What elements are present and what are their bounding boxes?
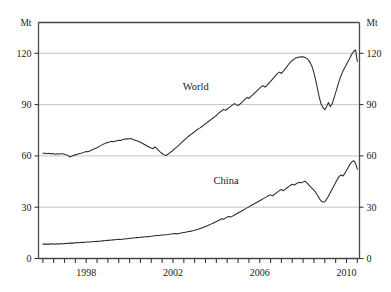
x-axis-label-2002: 2002 [163, 267, 183, 278]
series-line-china [43, 161, 357, 244]
y-axis-unit-label-right: Mt [367, 18, 378, 28]
chart-figure: 00303060609090120120MtMt1998200220062010… [0, 0, 391, 292]
y-axis-label-left-30: 30 [22, 202, 32, 213]
series-lines [43, 50, 357, 244]
y-axis-label-left-120: 120 [17, 48, 32, 59]
x-axis-label-2006: 2006 [250, 267, 270, 278]
y-axis-label-right-30: 30 [367, 202, 377, 213]
series-label-world: World [183, 81, 210, 92]
y-axis-label-right-0: 0 [367, 253, 372, 264]
y-axis-label-left-60: 60 [22, 150, 32, 161]
y-axis-label-left-0: 0 [27, 253, 32, 264]
x-axis-label-1998: 1998 [76, 267, 96, 278]
x-axis-ticks [43, 259, 357, 264]
x-axis-label-2010: 2010 [336, 267, 356, 278]
y-axis-unit-label-left: Mt [20, 18, 31, 28]
axis-tick-labels: 00303060609090120120MtMt1998200220062010 [17, 18, 382, 278]
line-chart: 00303060609090120120MtMt1998200220062010… [0, 0, 391, 292]
y-axis-label-right-120: 120 [367, 48, 382, 59]
y-axis-label-right-60: 60 [367, 150, 377, 161]
chart-frame [39, 23, 360, 259]
y-axis-label-left-90: 90 [22, 99, 32, 110]
chart-gridlines [39, 53, 360, 207]
y-axis-label-right-90: 90 [367, 99, 377, 110]
series-label-china: China [214, 175, 239, 186]
series-line-world [43, 50, 357, 157]
